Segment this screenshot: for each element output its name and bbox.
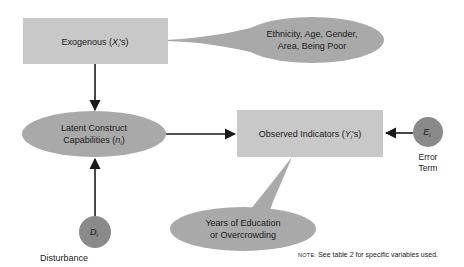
observed-callout-ellipse [170, 207, 316, 251]
disturbance-node: Di Disturbance [40, 159, 111, 263]
latent-suffix: ) [122, 135, 125, 145]
exogenous-callout: Ethnicity, Age, Gender, Area, Being Poor [165, 17, 384, 63]
latent-line-1: Latent Construct [61, 123, 128, 133]
observed-node: Observed Indicators (Yi's) [237, 110, 383, 157]
error-label-2: Term [419, 163, 438, 173]
path-diagram: Ethnicity, Age, Gender, Area, Being Poor… [0, 0, 464, 267]
observed-callout-pointer [250, 157, 292, 210]
exogenous-node: Exogenous (Xi's) [23, 18, 168, 64]
exogenous-suffix: 's) [119, 37, 128, 47]
observed-callout-line-1: Years of Education [205, 218, 280, 228]
observed-text: Observed Indicators ( [259, 129, 345, 139]
exogenous-text: Exogenous ( [61, 37, 112, 47]
disturbance-label: Disturbance [40, 253, 88, 263]
observed-callout: Years of Education or Overcrowding [170, 207, 316, 251]
note-text: See table 2 for specific variables used. [316, 251, 438, 259]
latent-line-2: Capabilities (ni) [63, 135, 124, 146]
callout-line-2: Area, Being Poor [278, 41, 347, 51]
error-label-1: Error [419, 152, 438, 162]
error-node: Ei Error Term [386, 117, 443, 173]
latent-node: Latent Construct Capabilities (ni) [22, 111, 166, 157]
callout-pointer [165, 28, 250, 52]
exogenous-label: Exogenous (Xi's) [61, 37, 128, 48]
observed-suffix: 's) [352, 129, 361, 139]
latent-ellipse [22, 111, 166, 157]
latent-text: Capabilities ( [63, 135, 115, 145]
note-prefix: NOTE: [298, 252, 316, 258]
observed-label: Observed Indicators (Yi's) [259, 129, 362, 140]
note: NOTE: See table 2 for specific variables… [298, 251, 438, 259]
callout-line-1: Ethnicity, Age, Gender, [267, 29, 358, 39]
observed-callout-line-2: or Overcrowding [210, 230, 276, 240]
callout-ellipse [240, 17, 384, 63]
